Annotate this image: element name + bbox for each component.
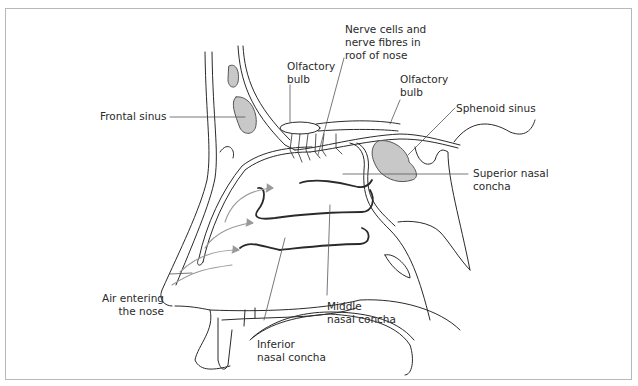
middle-concha: [256, 188, 373, 219]
label-line: Olfactory: [400, 73, 448, 86]
label-line: Air entering: [100, 292, 164, 305]
nasal-anatomy-illustration: [0, 0, 638, 386]
inferior-concha: [240, 228, 369, 250]
label-line: nasal concha: [327, 313, 396, 326]
label-nerve-cells: Nerve cells and nerve fibres in roof of …: [345, 23, 426, 62]
label-line: Middle: [327, 300, 396, 313]
label-olfactory-bulb-left: Olfactory bulb: [287, 60, 335, 86]
label-line: Nerve cells and: [345, 23, 426, 36]
label-line: roof of nose: [345, 49, 426, 62]
label-line: Superior nasal: [473, 167, 549, 180]
label-line: bulb: [287, 73, 335, 86]
sphenoid-bone: [415, 147, 470, 270]
label-middle-nasal-concha: Middle nasal concha: [327, 300, 396, 326]
label-air-entering: Air entering the nose: [100, 292, 164, 318]
label-olfactory-bulb-right: Olfactory bulb: [400, 73, 448, 99]
label-frontal-sinus: Frontal sinus: [100, 110, 166, 123]
olfactory-bulb: [280, 122, 320, 134]
olfactory-tract: [316, 121, 400, 131]
superior-concha: [300, 180, 372, 187]
label-line: nerve fibres in: [345, 36, 426, 49]
label-line: nasal concha: [257, 351, 326, 364]
label-line: concha: [473, 180, 549, 193]
label-line: Olfactory: [287, 60, 335, 73]
label-line: Inferior: [257, 338, 326, 351]
label-line: bulb: [400, 86, 448, 99]
label-line: the nose: [100, 305, 164, 318]
label-superior-nasal-concha: Superior nasal concha: [473, 167, 549, 193]
label-inferior-nasal-concha: Inferior nasal concha: [257, 338, 326, 364]
sphenoid-sinus: [372, 141, 416, 182]
label-sphenoid-sinus: Sphenoid sinus: [456, 102, 536, 115]
